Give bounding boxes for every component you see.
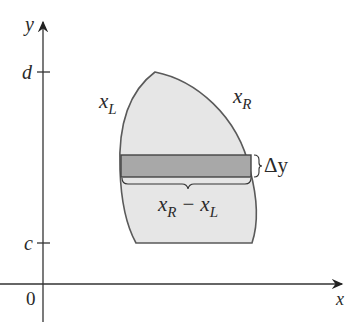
tick-c-label: c [24, 232, 33, 254]
tick-d-label: d [22, 61, 33, 83]
right-curve-label: xR [232, 84, 252, 112]
region-diagram: y x 0 d c xL xR Δy xR−xL [0, 0, 348, 322]
x-axis-label: x [335, 289, 344, 309]
height-brace [254, 155, 262, 177]
origin-label: 0 [26, 288, 36, 309]
left-curve-label: xL [98, 89, 117, 117]
delta-y-label: Δy [264, 153, 289, 177]
horizontal-strip [121, 155, 251, 177]
width-label: xR−xL [157, 192, 218, 220]
diagram-canvas: y x 0 d c xL xR Δy xR−xL [0, 0, 348, 322]
y-axis-label: y [23, 13, 34, 36]
